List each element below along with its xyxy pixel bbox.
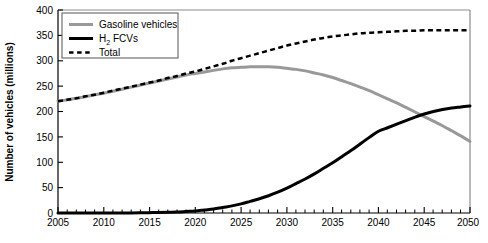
x-tick-label-2050: 2050 (457, 217, 480, 228)
y-tick-label-200: 200 (36, 106, 53, 117)
x-tick-label-2035: 2035 (322, 217, 345, 228)
x-tick-label-2045: 2045 (413, 217, 436, 228)
chart-figure: 0 50 100 150 200 250 300 350 400 (0, 0, 488, 243)
legend-h2-main: H (99, 33, 106, 44)
vehicle-projection-line-chart: 0 50 100 150 200 250 300 350 400 (0, 0, 488, 243)
legend-label-total: Total (99, 47, 120, 58)
y-tick-label-250: 250 (36, 81, 53, 92)
y-tick-label-300: 300 (36, 55, 53, 66)
x-tick-label-2040: 2040 (367, 217, 390, 228)
y-tick-label-100: 100 (36, 157, 53, 168)
legend-label-gasoline-vehicles: Gasoline vehicles (99, 19, 177, 30)
chart-legend: Gasoline vehicles H2 FCVs Total (62, 13, 178, 58)
x-tick-label-2010: 2010 (93, 217, 116, 228)
x-tick-label-2005: 2005 (47, 217, 70, 228)
legend-label-h2-fcvs: H2 FCVs (99, 33, 138, 46)
x-tick-label-2020: 2020 (184, 217, 207, 228)
y-axis-title: Number of vehicles (millions) (4, 42, 15, 181)
x-tick-label-2015: 2015 (138, 217, 161, 228)
legend-h2-rest: FCVs (110, 33, 138, 44)
y-tick-label-400: 400 (36, 5, 53, 16)
x-tick-label-2030: 2030 (276, 217, 299, 228)
y-tick-label-350: 350 (36, 30, 53, 41)
y-tick-label-50: 50 (42, 182, 54, 193)
y-tick-label-150: 150 (36, 132, 53, 143)
x-tick-label-2025: 2025 (230, 217, 253, 228)
